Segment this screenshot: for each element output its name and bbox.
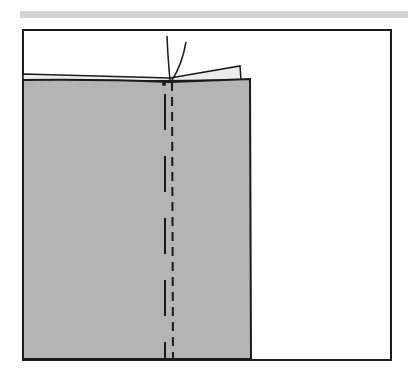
fabric-top-layer (23, 79, 251, 359)
sewing-diagram (0, 0, 408, 383)
knot-dot (162, 82, 166, 86)
